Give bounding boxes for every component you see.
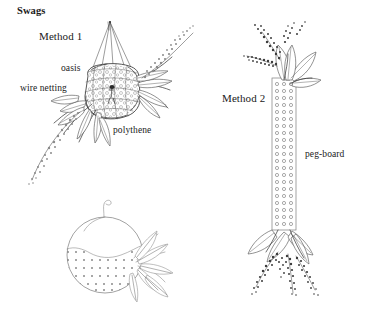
flower-spike-right — [144, 25, 194, 78]
flower-spike-left — [28, 112, 79, 185]
method-2-caption: Method 2 — [222, 93, 265, 104]
page-title: Swags — [17, 6, 46, 17]
method-2-top-foliage — [243, 21, 321, 87]
label-polythene: polythene — [113, 126, 151, 136]
label-oasis: oasis — [61, 64, 81, 74]
label-wire-netting: wire netting — [20, 84, 67, 94]
method-2-pegboard — [272, 78, 296, 230]
wire-hook-icon — [104, 200, 112, 217]
illustration-page: .ln { fill:none; stroke:#2f2f2f; stroke-… — [0, 0, 365, 317]
method-1-caption: Method 1 — [39, 31, 82, 42]
flower-spike-top — [243, 21, 306, 67]
method-2-bottom-foliage — [248, 230, 319, 296]
hanging-ball-swag — [67, 200, 173, 302]
method-1-right-foliage — [137, 25, 194, 118]
method-1-oasis-block — [85, 64, 140, 119]
label-peg-board: peg-board — [305, 150, 344, 160]
